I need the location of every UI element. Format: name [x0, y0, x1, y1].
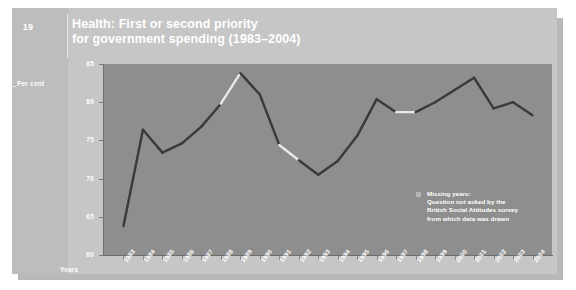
line-segment [416, 102, 435, 112]
y-tick-label: 85 [72, 60, 94, 67]
page-number: 19 [0, 22, 56, 32]
line-segment [240, 73, 259, 94]
figure-poster: 19 Health: First or second priority for … [0, 0, 576, 290]
y-tick-label: 60 [72, 251, 94, 258]
line-segment [260, 95, 279, 145]
figure-title-line2: for government spending (1983–2004) [72, 32, 402, 47]
line-segment [494, 102, 513, 108]
page-number-divider [67, 14, 68, 58]
line-segment-missing [221, 73, 240, 104]
line-series-svg [104, 64, 552, 255]
line-segment-missing [279, 145, 298, 160]
x-axis-label: Years [60, 266, 78, 273]
line-segment [299, 160, 318, 175]
y-tick [99, 179, 104, 180]
legend-line-2: Question not asked by the [427, 198, 518, 206]
line-segment [357, 99, 376, 136]
y-tick [99, 102, 104, 103]
figure-title: Health: First or second priority for gov… [72, 17, 402, 47]
legend-text: Missing years: Question not asked by the… [427, 190, 518, 223]
y-axis-label-tick [11, 86, 16, 87]
legend-line-1: Missing years: [427, 190, 518, 198]
y-tick-label: 80 [72, 98, 94, 105]
figure-title-line1: Health: First or second priority [72, 17, 258, 31]
y-tick [99, 140, 104, 141]
line-segment [201, 104, 220, 127]
y-tick [99, 217, 104, 218]
y-tick-label: 75 [72, 136, 94, 143]
line-segment [513, 102, 532, 115]
line-segment [377, 99, 396, 112]
y-tick [99, 64, 104, 65]
line-segment [182, 127, 201, 144]
line-segment [143, 130, 162, 153]
line-segment [123, 130, 142, 226]
missing-years-swatch-icon [416, 192, 421, 197]
legend-line-3: British Social Attitudes survey [427, 206, 518, 214]
legend-line-4: from which data was drawn [427, 215, 518, 223]
y-tick [99, 255, 104, 256]
page-number-column [12, 8, 68, 274]
line-segment [162, 143, 181, 152]
line-segment [455, 78, 474, 90]
y-tick-label: 70 [72, 175, 94, 182]
line-segment [474, 78, 493, 109]
y-tick-label: 65 [72, 213, 94, 220]
line-segment [318, 161, 337, 175]
line-segment [338, 136, 357, 161]
line-segment [435, 90, 454, 102]
chart-plot-area [104, 64, 552, 255]
y-axis-line [103, 64, 104, 256]
y-axis-label: Per cent [17, 80, 44, 87]
